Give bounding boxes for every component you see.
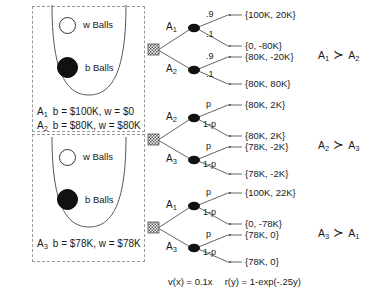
tree-3-act-label-a3: A3 bbox=[166, 241, 177, 254]
tree-1-act-label-a1: A1 bbox=[166, 21, 177, 34]
preference-relation-2: A2≻A3 bbox=[318, 137, 359, 153]
white-ball-label: w Balls bbox=[83, 19, 113, 30]
tree-2-payoff-4: {78K, -2K} bbox=[245, 168, 288, 179]
white-ball-label: w Balls bbox=[83, 151, 113, 162]
tree-3-prob-a3-down: 1-p bbox=[203, 247, 216, 257]
preference-relation-1: A1≻A2 bbox=[318, 47, 359, 63]
act-text-a1: b = $100K, w = $0 bbox=[53, 106, 134, 117]
act-tag-a1: A1 bbox=[37, 106, 48, 117]
tree-2-payoff-2: {80K, 2K} bbox=[245, 130, 285, 141]
act-text-a3: b = $78K, w = $78K bbox=[53, 238, 141, 249]
black-ball-icon bbox=[57, 57, 78, 78]
act-line-a2: A2b = $80K, w = $80K bbox=[37, 120, 141, 133]
tree-3-prob-a1-down: 1-p bbox=[203, 207, 216, 217]
tree-3-payoff-2: {0, -78K} bbox=[245, 218, 282, 229]
act-tag-a3: A3 bbox=[37, 238, 48, 249]
tree-2-prob-a3-down: 1-p bbox=[203, 159, 216, 169]
tree-1-prob-a2-up: .9 bbox=[206, 51, 214, 61]
tree-1-payoff-3: {80K, -20K} bbox=[245, 51, 294, 62]
risk-function: r(y) = 1-exp(-.25y) bbox=[225, 276, 301, 287]
black-ball-icon bbox=[57, 189, 78, 210]
act-text-a2: b = $80K, w = $80K bbox=[53, 120, 141, 131]
tree-2-prob-a3-up: p bbox=[206, 141, 211, 151]
tree-2-prob-a2-down: 1-p bbox=[203, 119, 216, 129]
act-tag-a2: A2 bbox=[37, 120, 48, 131]
tree-2-act-label-a3: A3 bbox=[166, 153, 177, 166]
white-ball-icon bbox=[59, 149, 76, 166]
tree-1-payoff-2: {0, -80K} bbox=[245, 40, 282, 51]
tree-1-act-label-a2: A2 bbox=[166, 63, 177, 76]
tree-3-payoff-3: {78K, 0} bbox=[245, 229, 279, 240]
tree-3-prob-a1-up: p bbox=[206, 187, 211, 197]
tree-1-prob-a1-down: .1 bbox=[206, 29, 214, 39]
act-line-a3: A3b = $78K, w = $78K bbox=[37, 238, 141, 251]
black-ball-label: b Balls bbox=[85, 62, 114, 73]
urn-panel-bottom: w Balls b Balls A3b = $78K, w = $78K bbox=[32, 134, 145, 262]
figure-canvas: w Balls b Balls A1b = $100K, w = $0 A2b … bbox=[0, 0, 369, 297]
white-ball-icon bbox=[59, 17, 76, 34]
act-line-a1: A1b = $100K, w = $0 bbox=[37, 106, 134, 119]
tree-3-payoff-4: {78K, 0} bbox=[245, 256, 279, 267]
tree-3-prob-a3-up: p bbox=[206, 229, 211, 239]
tree-2-payoff-1: {80K, 2K} bbox=[245, 99, 285, 110]
tree-1-prob-a1-up: .9 bbox=[206, 9, 214, 19]
preference-relation-3: A3≻A1 bbox=[318, 225, 359, 241]
value-function: v(x) = 0.1x bbox=[168, 276, 213, 287]
tree-1-payoff-4: {80K, 80K} bbox=[245, 78, 290, 89]
tree-2-act-label-a2: A2 bbox=[166, 111, 177, 124]
tree-3-act-label-a1: A1 bbox=[166, 199, 177, 212]
urn-panel-top: w Balls b Balls A1b = $100K, w = $0 A2b … bbox=[32, 6, 145, 132]
tree-1-payoff-1: {100K, 20K} bbox=[245, 9, 296, 20]
black-ball-label: b Balls bbox=[85, 194, 114, 205]
tree-1-prob-a2-down: .1 bbox=[206, 69, 214, 79]
tree-2-payoff-3: {78K, -2K} bbox=[245, 141, 288, 152]
utility-formula: v(x) = 0.1xr(y) = 1-exp(-.25y) bbox=[168, 276, 301, 287]
tree-3-payoff-1: {100K, 22K} bbox=[245, 187, 296, 198]
tree-2-prob-a2-up: p bbox=[206, 99, 211, 109]
